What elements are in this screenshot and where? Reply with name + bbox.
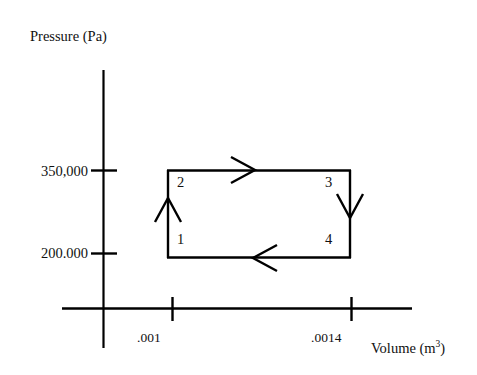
pv-diagram: Pressure (Pa) Volume (m3) 350,000 200.00… [0, 0, 477, 375]
x-tick-label-001: .001 [137, 331, 161, 345]
y-tick-label-350000: 350,000 [16, 164, 88, 179]
y-axis-title: Pressure (Pa) [30, 29, 107, 44]
x-axis-title: Volume (m3) [371, 340, 445, 355]
x-tick-label-0014: .0014 [311, 331, 341, 345]
state-label-3: 3 [325, 175, 332, 190]
y-tick-label-200000: 200.000 [16, 246, 88, 261]
state-label-1: 1 [177, 232, 184, 247]
x-axis-title-text: Volume (m [371, 340, 436, 356]
state-label-2: 2 [177, 175, 184, 190]
diagram-graphics [0, 0, 477, 375]
x-axis-title-suffix: ) [440, 340, 445, 356]
state-label-4: 4 [325, 232, 332, 247]
